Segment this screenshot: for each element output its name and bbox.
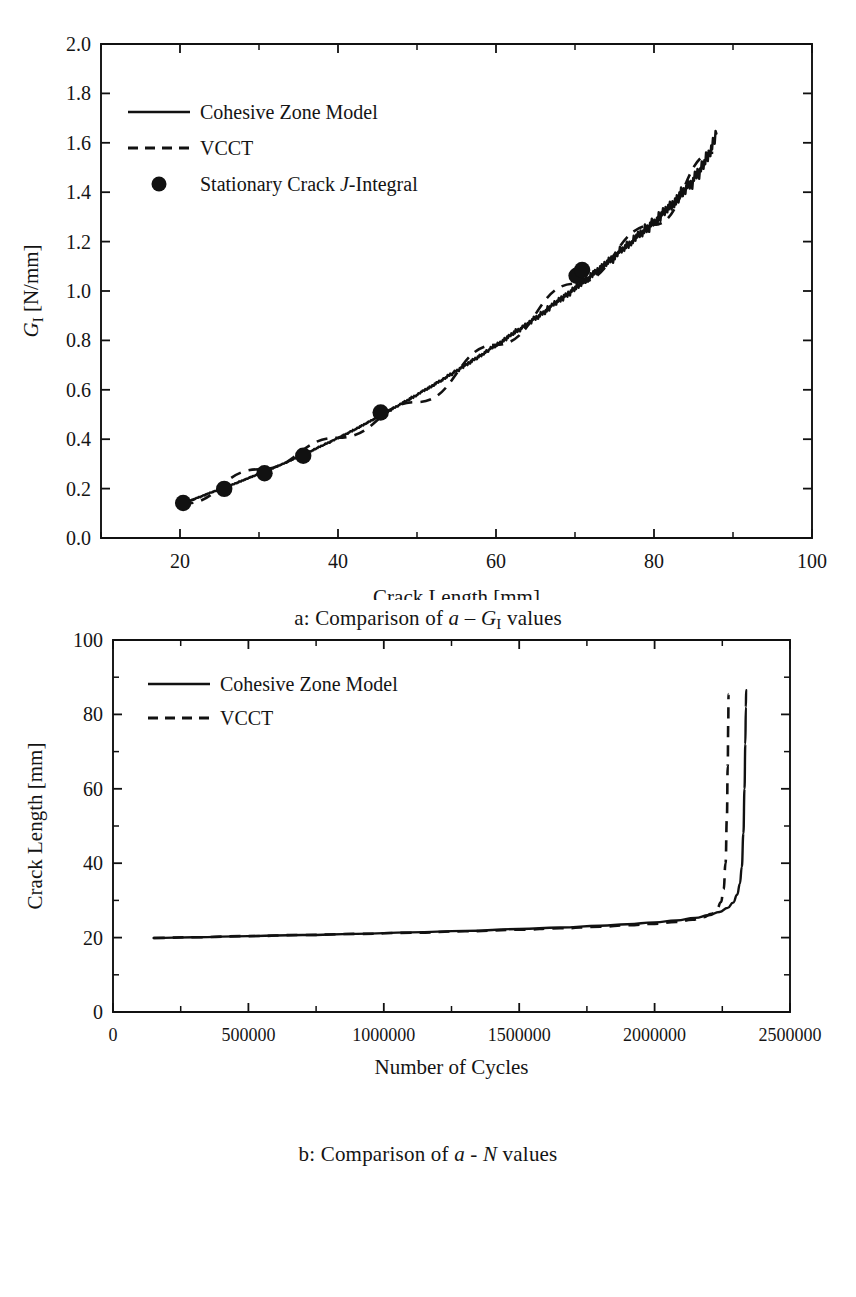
y-tick-label: 0 [93,1001,103,1023]
legend-label: Stationary Crack J-Integral [200,173,418,196]
x-tick-label: 20 [170,550,190,572]
y-axis-title-var: G [19,322,43,337]
y-tick-label: 40 [83,852,103,874]
caption-b: b: Comparison of a - N values [0,1142,856,1167]
y-tick-label: 1.0 [66,280,91,302]
plot-frame [113,640,790,1012]
x-axis-title: Number of Cycles [375,1055,529,1079]
caption-b-var2: N [483,1142,497,1166]
data-marker [175,495,191,511]
legend-label: VCCT [220,707,273,729]
y-tick-label: 1.8 [66,82,91,104]
legend-label-post: -Integral [349,173,418,196]
caption-b-dash: - [465,1142,483,1166]
legend-label: VCCT [200,137,253,159]
chart-b-canvas: 0500000100000015000002000000250000002040… [0,612,856,1132]
y-tick-label: 2.0 [66,33,91,55]
x-tick-label: 2500000 [759,1025,822,1045]
x-tick-label: 40 [328,550,348,572]
y-axis-title: Crack Length [mm] [23,743,47,910]
y-axis-title: GI [N/mm] [19,244,46,337]
y-tick-label: 60 [83,778,103,800]
data-marker [256,465,272,481]
y-tick-label: 20 [83,927,103,949]
data-marker [574,262,590,278]
y-tick-label: 0.4 [66,428,91,450]
y-tick-label: 100 [73,629,103,651]
y-tick-label: 1.6 [66,132,91,154]
y-tick-label: 0.8 [66,329,91,351]
x-tick-label: 2000000 [623,1025,686,1045]
x-axis-title: Crack Length [mm] [373,585,540,600]
x-tick-label: 60 [486,550,506,572]
chart-panel-a: 204060801000.00.20.40.60.81.01.21.41.61.… [0,0,856,612]
x-tick-label: 1000000 [352,1025,415,1045]
legend-label: Cohesive Zone Model [200,101,378,123]
data-marker [216,481,232,497]
y-tick-label: 0.2 [66,478,91,500]
y-tick-label: 80 [83,703,103,725]
data-marker [372,404,388,420]
caption-b-suffix: values [497,1142,557,1166]
y-tick-label: 0.0 [66,527,91,549]
legend-label-pre: Stationary Crack [200,173,340,196]
y-tick-label: 1.4 [66,181,91,203]
x-tick-label: 500000 [221,1025,275,1045]
y-tick-label: 0.6 [66,379,91,401]
y-tick-label: 1.2 [66,231,91,253]
caption-b-prefix: b: Comparison of [299,1142,455,1166]
figure-page: 204060801000.00.20.40.60.81.01.21.41.61.… [0,0,856,1297]
legend-swatch-marker [152,177,167,192]
x-tick-label: 80 [644,550,664,572]
caption-b-var1: a [454,1142,465,1166]
series-line-dashed [154,694,729,938]
x-tick-label: 100 [797,550,827,572]
x-tick-label: 1500000 [488,1025,551,1045]
legend-label: Cohesive Zone Model [220,673,398,695]
series-line-dashed [182,153,713,504]
x-tick-label: 0 [109,1025,118,1045]
chart-a-canvas: 204060801000.00.20.40.60.81.01.21.41.61.… [0,0,856,600]
data-marker [295,448,311,464]
chart-panel-b: 0500000100000015000002000000250000002040… [0,612,856,1152]
y-axis-title-unit: [N/mm] [19,244,43,317]
y-axis-title-text: GI [N/mm] [19,244,46,337]
